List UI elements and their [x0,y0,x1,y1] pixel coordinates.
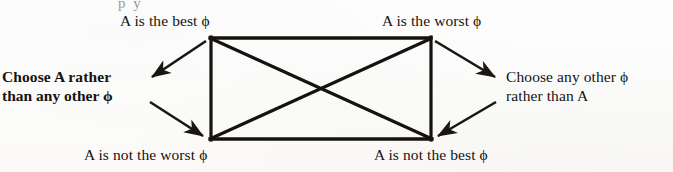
side-label-right-line1: Choose any other ϕ [506,67,628,86]
side-label-left: Choose A rather than any other ϕ [2,67,113,105]
side-label-left-line2: than any other ϕ [2,86,113,105]
corner-label-bottom-left: A is not the worst ϕ [84,146,207,164]
side-label-left-line1: Choose A rather [2,67,113,86]
corner-label-top-left: A is the best ϕ [120,12,210,30]
square-of-opposition-figure: p y A is the best ϕ A is the wors [0,0,673,172]
corner-label-bottom-right: A is not the best ϕ [374,146,488,164]
corner-label-top-right: A is the worst ϕ [382,12,481,30]
arrow-right-label-to-bottomright [438,102,496,136]
square-diagonals [212,39,430,138]
arrow-topright-to-right-label [435,41,495,77]
arrow-left-label-to-bottomleft [150,102,203,136]
side-label-right: Choose any other ϕ rather than A [506,67,628,105]
side-label-right-line2: rather than A [506,86,628,105]
arrow-topleft-to-left-label [152,41,206,77]
